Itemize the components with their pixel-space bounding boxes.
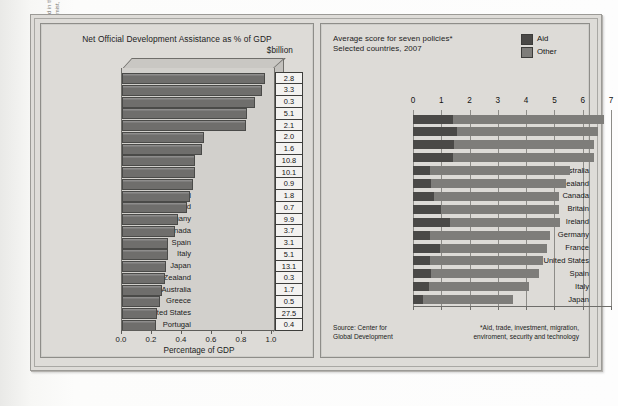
right-bar-segment-other bbox=[434, 192, 558, 201]
right-bar-row: Denmark bbox=[321, 126, 589, 138]
right-footnote-line-2: enviroment, security and technology bbox=[473, 333, 579, 340]
left-plot-area: Norway2.8Sweden3.3Luxembourg0.3Netherlan… bbox=[41, 24, 313, 357]
left-x-tick-label: 0.2 bbox=[136, 335, 166, 344]
right-bar-segment-other bbox=[450, 218, 560, 227]
left-bar-value-box: 0.4 bbox=[275, 318, 303, 331]
right-bar-row: France bbox=[321, 242, 589, 254]
right-bar-segment-other bbox=[457, 127, 598, 136]
right-bar-segment-other bbox=[453, 153, 594, 162]
left-x-tick-label: 0.0 bbox=[106, 335, 136, 344]
right-bar-segment-aid bbox=[413, 205, 441, 214]
right-bottom-tick bbox=[441, 306, 442, 310]
right-bar-row: Ireland bbox=[321, 216, 589, 228]
right-bar-row: Japan bbox=[321, 294, 589, 306]
right-bar-row: Spain bbox=[321, 268, 589, 280]
right-bar-segment-other bbox=[440, 244, 547, 253]
right-bar-segment-aid bbox=[413, 153, 453, 162]
right-bar-segment-other bbox=[453, 115, 604, 124]
right-bar-row: Australia bbox=[321, 165, 589, 177]
right-bar-segment-aid bbox=[413, 295, 423, 304]
left-x-tick-label: 0.6 bbox=[196, 335, 226, 344]
left-x-axis-label: Percentage of GDP bbox=[101, 346, 297, 355]
right-bottom-tick bbox=[498, 306, 499, 310]
left-x-tick bbox=[151, 330, 152, 334]
right-bar-segment-aid bbox=[413, 166, 430, 175]
right-x-tick-label: 2 bbox=[460, 96, 480, 105]
right-x-tick-label: 3 bbox=[488, 96, 508, 105]
right-bar-segment-other bbox=[430, 231, 550, 240]
right-x-tick-label: 4 bbox=[516, 96, 536, 105]
right-bar-segment-aid bbox=[413, 140, 454, 149]
left-x-axis-line bbox=[121, 330, 274, 331]
right-bar-row: United States bbox=[321, 255, 589, 267]
right-x-tick-label: 5 bbox=[544, 96, 564, 105]
right-source-line-2: Global Development bbox=[333, 333, 393, 340]
right-x-tick-label: 6 bbox=[573, 96, 593, 105]
page-background: Aid data from the Organisation for Econo… bbox=[0, 0, 618, 406]
left-chart-panel: Net Official Development Assistance as %… bbox=[40, 23, 314, 358]
right-bar-segment-aid bbox=[413, 269, 431, 278]
left-bar-row: Portugal0.4 bbox=[121, 318, 345, 331]
right-bar-segment-aid bbox=[413, 192, 434, 201]
right-bar-segment-aid bbox=[413, 179, 431, 188]
right-bottom-tick bbox=[554, 306, 555, 310]
right-footnote-line-1: *Aid, trade, investment, migration, bbox=[480, 324, 579, 331]
right-bar-segment-other bbox=[430, 166, 570, 175]
right-bar-segment-other bbox=[431, 179, 565, 188]
right-bar-row: Norway bbox=[321, 152, 589, 164]
right-bottom-tick bbox=[470, 306, 471, 310]
right-bar-segment-aid bbox=[413, 244, 440, 253]
left-x-tick bbox=[181, 330, 182, 334]
right-chart-panel: Average score for seven policies* Select… bbox=[320, 23, 590, 358]
left-x-tick bbox=[241, 330, 242, 334]
right-bar-segment-aid bbox=[413, 218, 450, 227]
left-x-tick bbox=[271, 330, 272, 334]
right-bar-segment-other bbox=[429, 282, 529, 291]
right-bar-segment-aid bbox=[413, 256, 430, 265]
left-x-tick-label: 0.4 bbox=[166, 335, 196, 344]
right-bar-segment-aid bbox=[413, 127, 457, 136]
right-bar-country-label: Japan bbox=[501, 294, 589, 306]
left-x-tick-label: 0.8 bbox=[226, 335, 256, 344]
right-bar-segment-other bbox=[454, 140, 594, 149]
left-x-tick-label: 1.0 bbox=[256, 335, 286, 344]
right-plot-area: 01234567 NetherlandsDenmarkSwedenNorwayA… bbox=[321, 24, 589, 357]
right-bar-segment-aid bbox=[413, 231, 430, 240]
right-x-tick-label: 1 bbox=[431, 96, 451, 105]
right-bar-row: Italy bbox=[321, 281, 589, 293]
right-bar-segment-other bbox=[431, 269, 538, 278]
right-bottom-tick bbox=[611, 306, 612, 310]
left-x-tick bbox=[211, 330, 212, 334]
right-bar-row: Canada bbox=[321, 190, 589, 202]
figure-frame: Net Official Development Assistance as %… bbox=[30, 14, 602, 371]
right-source-line-1: Source: Center for bbox=[333, 324, 387, 331]
right-bar-row: Germany bbox=[321, 229, 589, 241]
right-x-tick-label: 0 bbox=[403, 96, 423, 105]
right-bar-segment-aid bbox=[413, 282, 429, 291]
right-gridline bbox=[611, 110, 612, 306]
right-bar-segment-other bbox=[441, 205, 558, 214]
right-bar-row: New Zealand bbox=[321, 178, 589, 190]
right-x-tick-label: 7 bbox=[601, 96, 618, 105]
left-x-tick bbox=[121, 330, 122, 334]
right-bar-row: Britain bbox=[321, 203, 589, 215]
right-bar-row: Netherlands bbox=[321, 113, 589, 125]
right-bar-segment-other bbox=[423, 295, 514, 304]
right-bar-segment-other bbox=[430, 256, 543, 265]
right-bottom-tick bbox=[583, 306, 584, 310]
right-bottom-tick bbox=[413, 306, 414, 310]
right-bar-segment-aid bbox=[413, 115, 453, 124]
right-bar-row: Sweden bbox=[321, 139, 589, 151]
right-bottom-tick bbox=[526, 306, 527, 310]
